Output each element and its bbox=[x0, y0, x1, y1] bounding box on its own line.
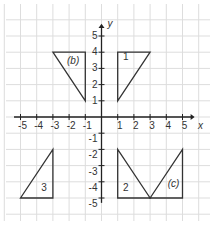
x-tick-label: 5 bbox=[182, 120, 188, 131]
y-tick-label: -3 bbox=[89, 166, 98, 177]
y-tick-label: -1 bbox=[89, 133, 98, 144]
x-tick-label: 4 bbox=[166, 120, 172, 131]
y-axis-label: y bbox=[107, 18, 114, 29]
x-tick-label: 2 bbox=[133, 120, 139, 131]
shape-label: 1 bbox=[123, 51, 129, 62]
x-tick-label: -3 bbox=[50, 120, 59, 131]
y-axis-arrow-icon bbox=[99, 24, 105, 28]
y-tick-label: -2 bbox=[89, 149, 98, 160]
y-tick-label: -5 bbox=[89, 198, 98, 209]
y-tick-label: 5 bbox=[92, 30, 98, 41]
shape-label: (b) bbox=[67, 55, 79, 66]
x-axis-arrow-icon bbox=[191, 114, 195, 120]
x-axis-label: x bbox=[197, 120, 204, 131]
shape-label: (c) bbox=[168, 178, 180, 189]
shape-label: 2 bbox=[123, 182, 129, 193]
y-tick-label: -4 bbox=[89, 182, 98, 193]
x-tick-label: -1 bbox=[83, 120, 92, 131]
shape-label: 3 bbox=[41, 182, 47, 193]
axes bbox=[14, 24, 195, 203]
y-tick-label: 4 bbox=[92, 46, 98, 57]
x-tick-label: -4 bbox=[34, 120, 43, 131]
x-tick-label: 3 bbox=[149, 120, 155, 131]
y-tick-label: 3 bbox=[92, 62, 98, 73]
x-tick-label: -5 bbox=[18, 120, 27, 131]
y-tick-label: 2 bbox=[92, 79, 98, 90]
x-tick-label: 1 bbox=[117, 120, 123, 131]
coordinate-grid-diagram: -5-4-3-2-11234554321-1-2-3-4-5xy (b)132(… bbox=[0, 0, 213, 225]
y-tick-label: 1 bbox=[92, 95, 98, 106]
x-tick-label: -2 bbox=[67, 120, 76, 131]
